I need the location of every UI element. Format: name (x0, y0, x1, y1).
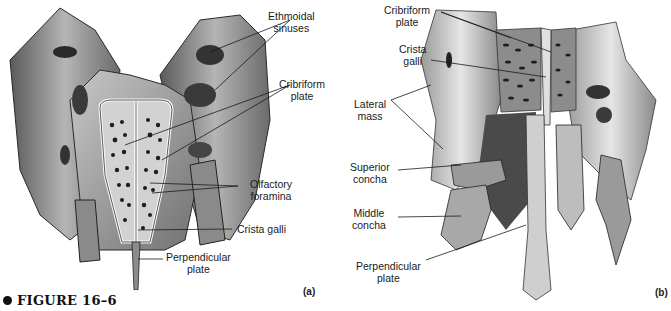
figure-panel-a: Ethmoidal sinuses Cribriform plate Olfac… (0, 0, 340, 290)
label-middle-concha: Middle concha (352, 207, 386, 231)
label-text: plate (166, 263, 231, 275)
label-text: Perpendicular (356, 260, 421, 272)
label-text: galli (399, 55, 426, 67)
bullet-icon (3, 296, 12, 305)
label-text: Cribriform (384, 4, 430, 16)
label-text: plate (356, 272, 421, 284)
label-text: concha (352, 219, 386, 231)
label-text: mass (354, 110, 386, 122)
label-text: Middle (352, 207, 386, 219)
figure-number: FIGURE 16–6 (17, 293, 117, 308)
label-perpendicular-plate: Perpendicular plate (166, 251, 231, 275)
label-text: Perpendicular (166, 251, 231, 263)
label-text: Olfactory (250, 178, 292, 190)
label-olfactory-foramina: Olfactory foramina (250, 178, 292, 202)
label-text: Superior (350, 161, 390, 173)
label-text: Ethmoidal (268, 10, 315, 22)
panel-a-tag: (a) (303, 286, 315, 297)
label-text: plate (384, 16, 430, 28)
label-text: Cribriform (279, 78, 325, 90)
label-ethmoidal-sinuses: Ethmoidal sinuses (268, 10, 315, 34)
label-text: Lateral (354, 98, 386, 110)
label-lateral-mass: Lateral mass (354, 98, 386, 122)
label-text: plate (279, 90, 325, 102)
label-perpendicular-plate-b: Perpendicular plate (356, 260, 421, 284)
label-superior-concha: Superior concha (350, 161, 390, 185)
ethmoid-superior-view-illustration (0, 0, 340, 290)
label-crista-galli: Crista galli (237, 223, 286, 235)
figure-caption: FIGURE 16–6 (3, 293, 117, 308)
label-text: Crista (399, 43, 426, 55)
label-text: foramina (250, 190, 292, 202)
label-text: sinuses (268, 22, 315, 34)
panel-b-tag: (b) (655, 287, 668, 298)
figure-panel-b: Cribriform plate Crista galli Lateral ma… (336, 0, 671, 311)
label-cribriform-plate: Cribriform plate (279, 78, 325, 102)
label-text: concha (350, 173, 390, 185)
label-cribriform-plate-b: Cribriform plate (384, 4, 430, 28)
label-crista-galli-b: Crista galli (399, 43, 426, 67)
